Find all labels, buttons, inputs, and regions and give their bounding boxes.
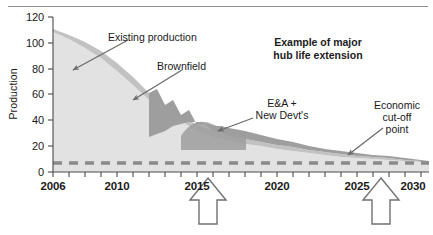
y-tick-100: 100 bbox=[20, 37, 44, 49]
x-tick-2025: 2025 bbox=[333, 180, 381, 193]
annotation-existing-production: Existing production bbox=[108, 32, 197, 44]
annotation-ea-new-devts: E&A + New Devt's bbox=[247, 98, 317, 122]
annotation-econ-line1: Economic bbox=[374, 99, 420, 111]
annotation-brownfield: Brownfield bbox=[157, 61, 206, 73]
annotation-econ-line3: point bbox=[386, 123, 409, 135]
x-axis-ticks bbox=[53, 172, 421, 177]
x-tick-2015: 2015 bbox=[173, 180, 221, 193]
callout-title-line2: hub life extension bbox=[273, 49, 362, 61]
callout-title-line1: Example of major bbox=[274, 36, 362, 48]
x-tick-2030: 2030 bbox=[389, 180, 433, 193]
y-tick-20: 20 bbox=[20, 140, 44, 152]
annotation-economic-cutoff: Economic cut-off point bbox=[366, 100, 428, 135]
area-ea-hump-smooth bbox=[181, 122, 246, 150]
y-tick-0: 0 bbox=[20, 166, 44, 178]
y-tick-40: 40 bbox=[20, 114, 44, 126]
annotation-ea-line2: New Devt's bbox=[256, 109, 309, 121]
x-tick-2020: 2020 bbox=[253, 180, 301, 193]
y-tick-120: 120 bbox=[20, 11, 44, 23]
production-forecast-chart: Production 120 100 80 60 40 20 0 2006 20… bbox=[0, 0, 433, 235]
y-tick-60: 60 bbox=[20, 88, 44, 100]
y-axis-ticks bbox=[48, 17, 53, 172]
y-tick-80: 80 bbox=[20, 63, 44, 75]
annotation-econ-line2: cut-off bbox=[383, 111, 412, 123]
x-tick-2010: 2010 bbox=[93, 180, 141, 193]
x-tick-2006: 2006 bbox=[29, 180, 77, 193]
y-axis-title: Production bbox=[8, 59, 20, 129]
callout-title: Example of major hub life extension bbox=[263, 36, 373, 62]
annotation-ea-line1: E&A + bbox=[267, 97, 296, 109]
